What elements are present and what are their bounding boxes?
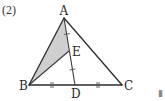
- label-e: E: [72, 45, 81, 59]
- label-d: D: [71, 87, 81, 101]
- label-b: B: [19, 79, 28, 93]
- problem-number: (2): [2, 3, 16, 17]
- label-c: C: [124, 79, 133, 93]
- corner-glyph: ▮: [158, 88, 163, 98]
- triangle-diagram: (2) A B C D E ▮: [0, 0, 165, 101]
- label-a: A: [59, 4, 69, 18]
- shaded-triangle-abe: [29, 18, 69, 85]
